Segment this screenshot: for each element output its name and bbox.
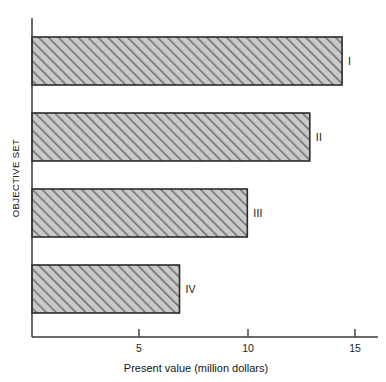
bar-label-iv: IV <box>186 283 196 295</box>
x-tick-label-10: 10 <box>242 342 254 354</box>
chart-canvas: I II III IV 5 10 15 Present value (milli… <box>0 0 386 382</box>
bar-row <box>32 37 342 85</box>
y-axis-title: OBJECTIVE SET <box>10 139 21 217</box>
x-axis-title: Present value (million dollars) <box>124 362 268 374</box>
bar-row <box>32 113 310 161</box>
x-tick-label-15: 15 <box>349 342 361 354</box>
bar-label-ii: II <box>316 131 322 143</box>
bar-label-i: I <box>348 55 351 67</box>
bar-chart-figure: I II III IV 5 10 15 Present value (milli… <box>0 0 386 382</box>
bar-label-iii: III <box>253 207 262 219</box>
x-tick-label-5: 5 <box>136 342 142 354</box>
bar-row <box>32 265 180 313</box>
bar-row <box>32 189 247 237</box>
